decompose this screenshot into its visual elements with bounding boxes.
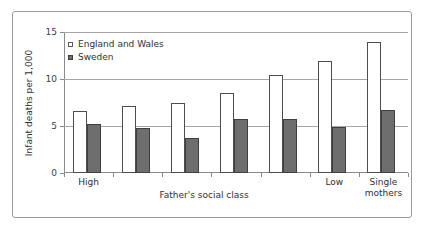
bar-england-and-wales-group-7 (367, 42, 381, 173)
x-tick-mark-5 (310, 173, 311, 177)
chart-figure: Infant deaths per 1,000 051015 England a… (0, 0, 426, 235)
x-category-label-line-1: Single (365, 177, 402, 188)
y-tick-mark-15 (60, 32, 64, 33)
legend-item-sweden: Sweden (68, 51, 164, 64)
x-axis-title: Father's social class (0, 190, 408, 200)
x-tick-mark-4 (261, 173, 262, 177)
bar-sweden-group-3 (185, 138, 199, 173)
y-tick-label-0: 0 (51, 168, 57, 178)
legend-swatch-icon-sweden (68, 55, 73, 60)
x-tick-mark-6 (359, 173, 360, 177)
bar-england-and-wales-group-4 (220, 93, 234, 173)
legend-item-england-and-wales: England and Wales (68, 38, 164, 51)
x-tick-mark-7 (408, 173, 409, 177)
bar-england-and-wales-group-6 (318, 61, 332, 173)
bar-sweden-group-5 (283, 119, 297, 173)
y-axis-title-text: Infant deaths per 1,000 (24, 49, 34, 155)
y-tick-label-15: 15 (46, 27, 57, 37)
x-category-label-high: High (78, 177, 99, 188)
bar-sweden-group-6 (332, 127, 346, 173)
bar-sweden-group-1 (87, 124, 101, 173)
gridline-15 (64, 32, 408, 33)
gridline-10 (64, 79, 408, 80)
y-tick-mark-5 (60, 126, 64, 127)
bar-england-and-wales-group-2 (122, 106, 136, 173)
y-tick-mark-10 (60, 79, 64, 80)
y-tick-label-5: 5 (51, 121, 57, 131)
y-axis-line (64, 32, 65, 173)
bar-england-and-wales-group-1 (73, 111, 87, 173)
x-tick-mark-3 (211, 173, 212, 177)
bar-sweden-group-4 (234, 119, 248, 173)
chart-legend: England and Wales Sweden (68, 38, 164, 64)
x-tick-mark-0 (64, 173, 65, 177)
x-axis-title-text: Father's social class (159, 190, 248, 200)
x-tick-mark-1 (113, 173, 114, 177)
x-tick-mark-2 (162, 173, 163, 177)
legend-swatch-icon-england-and-wales (68, 42, 73, 47)
bar-sweden-group-2 (136, 128, 150, 173)
legend-label-sweden: Sweden (78, 51, 114, 64)
x-category-label-low: Low (325, 177, 343, 188)
bar-england-and-wales-group-5 (269, 75, 283, 173)
legend-label-england-and-wales: England and Wales (78, 38, 164, 51)
y-axis-title: Infant deaths per 1,000 (22, 32, 36, 173)
bar-sweden-group-7 (381, 110, 395, 173)
bar-england-and-wales-group-3 (171, 103, 185, 173)
y-tick-label-10: 10 (46, 74, 57, 84)
